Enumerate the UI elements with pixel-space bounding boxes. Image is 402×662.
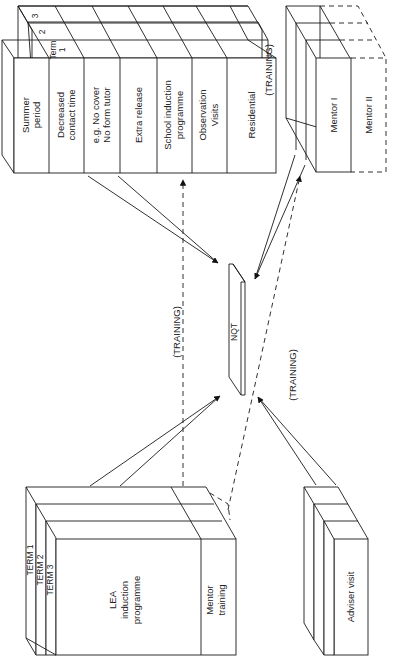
lea-mentor-l1: Mentor: [204, 585, 215, 615]
lea-term-2: TERM 2: [35, 554, 45, 585]
school-row-observation-l2: Visits: [209, 103, 220, 126]
term-1-label: 1: [57, 47, 67, 52]
lea-mentor-l2: training: [216, 584, 227, 615]
school-support-block: 3 2 Term 1 Summer period Decreased conta…: [2, 6, 276, 173]
school-row-contact-l1: Decreased: [55, 92, 66, 138]
nqt-node: NQT: [229, 264, 245, 395]
school-row-nocover-l1: e.g. No cover: [90, 87, 101, 144]
mentor-block: Mentor I Mentor II: [286, 6, 386, 172]
adviser-visit-block: Adviser visit: [304, 487, 368, 655]
lea-term-3: TERM 3: [45, 564, 55, 595]
school-row-nocover-l2: No form tutor: [101, 87, 112, 142]
term-3-label: 3: [30, 13, 40, 18]
school-row-observation-l1: Observation: [197, 89, 208, 140]
lea-main-l1: LEA: [107, 590, 118, 609]
school-row-extra-release: Extra release: [133, 87, 144, 143]
school-row-contact-l2: contact time: [66, 89, 77, 140]
training-label-top-right: (TRAINING): [263, 44, 274, 96]
school-row-induction-l2: programme: [174, 91, 185, 140]
lea-term-1: TERM 1: [25, 544, 35, 575]
nqt-induction-diagram: 3 2 Term 1 Summer period Decreased conta…: [0, 0, 402, 662]
adviser-visit-label: Adviser visit: [345, 571, 356, 622]
mentor-1-label: Mentor I: [328, 98, 339, 133]
lea-main-l2: induction: [119, 581, 130, 619]
school-row-summer-l1: Summer: [20, 97, 31, 133]
school-row-induction-l1: School induction: [162, 80, 173, 150]
term-2-label: 2: [37, 29, 47, 34]
school-row-summer-l2: period: [31, 102, 42, 128]
nqt-label: NQT: [229, 323, 239, 341]
training-label-left: (TRAINING): [171, 306, 182, 358]
lea-main-l3: programme: [131, 576, 142, 625]
lea-induction-block: TERM 1 TERM 2 TERM 3 LEA induction progr…: [25, 487, 236, 655]
mentor-2-label: Mentor II: [363, 96, 374, 134]
school-row-residential: Residential: [246, 92, 257, 139]
training-label-right: (TRAINING): [287, 349, 298, 401]
